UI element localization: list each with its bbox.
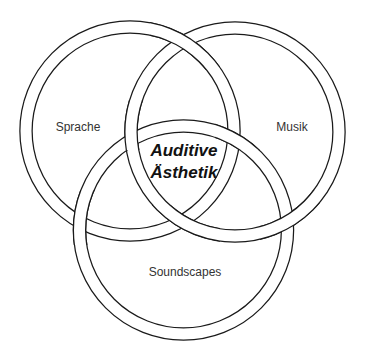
label-sprache: Sprache bbox=[56, 120, 101, 134]
intersection-label: Auditive Ästhetik bbox=[150, 140, 217, 184]
intersection-label-line2: Ästhetik bbox=[150, 162, 217, 184]
label-musik: Musik bbox=[276, 120, 307, 134]
intersection-label-line1: Auditive bbox=[150, 140, 217, 162]
label-soundscapes: Soundscapes bbox=[149, 265, 222, 279]
